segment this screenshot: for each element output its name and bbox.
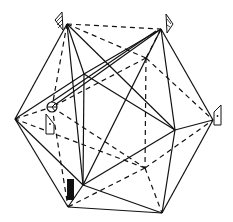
hatched-flag-top-left-icon <box>55 12 63 30</box>
hidden-edges <box>15 24 213 213</box>
black-bar-icon <box>67 179 74 200</box>
visible-edges <box>15 24 213 213</box>
dot-tag-right-icon <box>214 105 221 125</box>
dot-tag-left-icon <box>46 114 54 134</box>
icosahedron-diagram <box>0 0 233 222</box>
hatched-flag-top-right-icon <box>166 14 173 33</box>
crossed-circle-icon <box>47 102 57 112</box>
